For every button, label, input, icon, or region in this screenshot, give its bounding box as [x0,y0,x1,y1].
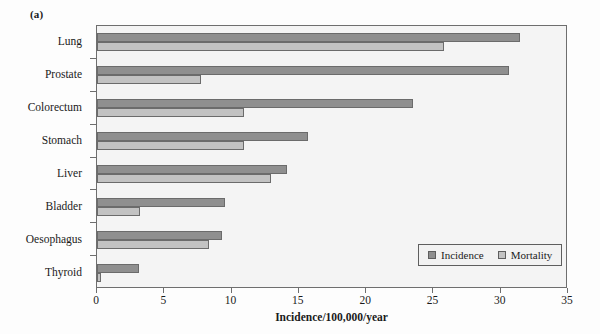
x-axis: 05101520253035 [0,0,600,334]
x-axis-tick [432,288,433,293]
x-axis-tick-label: 20 [345,294,385,306]
legend-label: Incidence [441,249,484,261]
x-axis-title: Incidence/100,000/year [96,311,567,323]
y-axis-tick [90,157,96,158]
x-axis-tick-label: 35 [547,294,587,306]
x-axis-tick [567,288,568,293]
x-axis-tick [365,288,366,293]
x-axis-tick-label: 10 [211,294,251,306]
x-axis-tick [96,288,97,293]
x-axis-tick [163,288,164,293]
x-axis-tick-label: 15 [278,294,318,306]
y-axis-tick [90,124,96,125]
x-axis-tick-label: 0 [76,294,116,306]
y-axis-tick [90,91,96,92]
legend-entry-mortality[interactable]: Mortality [498,249,553,261]
legend-swatch-mortality-icon [498,251,506,259]
y-axis-tick [90,255,96,256]
y-axis-tick [90,189,96,190]
figure-panel-a: (a) LungProstateColorectumStomachLiverBl… [0,0,600,334]
x-axis-tick-label: 30 [480,294,520,306]
x-axis-tick-label: 5 [143,294,183,306]
legend-label: Mortality [511,249,553,261]
y-axis-tick [90,58,96,59]
y-axis-tick [90,222,96,223]
x-axis-tick [231,288,232,293]
x-axis-tick-label: 25 [412,294,452,306]
x-axis-tick [298,288,299,293]
chart-legend: IncidenceMortality [418,244,562,266]
legend-swatch-incidence-icon [428,251,436,259]
legend-entry-incidence[interactable]: Incidence [428,249,484,261]
x-axis-tick [500,288,501,293]
